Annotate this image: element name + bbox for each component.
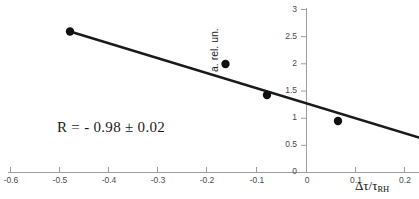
data-point bbox=[263, 91, 271, 99]
y-tick-label: 2 bbox=[273, 58, 297, 68]
y-tick-label: 3 bbox=[273, 4, 297, 14]
x-tick-label: -0.4 bbox=[94, 175, 124, 185]
x-tick-label: -0.1 bbox=[242, 175, 272, 185]
x-tick-label: -0.6 bbox=[0, 175, 26, 185]
data-point bbox=[334, 117, 342, 125]
x-tick-label: 0.2 bbox=[390, 175, 419, 185]
correlation-annotation: R = - 0.98 ± 0.02 bbox=[57, 119, 165, 136]
y-tick-label: 1 bbox=[273, 112, 297, 122]
x-tick-label: -0.3 bbox=[143, 175, 173, 185]
y-axis-label: a. rel. un. bbox=[208, 0, 222, 2]
x-axis-label-main: Δτ/τ bbox=[355, 178, 377, 193]
x-tick-label: -0.5 bbox=[45, 175, 75, 185]
x-tick-label: 0 bbox=[292, 175, 322, 185]
y-tick-label: 1.5 bbox=[273, 85, 297, 95]
y-tick-label: 0.5 bbox=[273, 139, 297, 149]
x-axis-label: Δτ/τRH bbox=[355, 178, 389, 194]
y-tick-label: 0 bbox=[273, 166, 297, 176]
y-axis-ticks bbox=[301, 10, 307, 173]
scatter-plot-figure: -0.6 -0.5 -0.4 -0.3 -0.2 -0.1 0 0.1 0.2 … bbox=[0, 0, 419, 199]
data-point bbox=[66, 27, 74, 35]
x-tick-label: -0.2 bbox=[192, 175, 222, 185]
y-tick-label: 2.5 bbox=[273, 31, 297, 41]
y-axis-label-text: a. rel. un. bbox=[208, 28, 220, 72]
data-point bbox=[221, 60, 229, 68]
x-axis-ticks bbox=[11, 167, 405, 173]
x-axis-label-subscript: RH bbox=[377, 184, 389, 194]
